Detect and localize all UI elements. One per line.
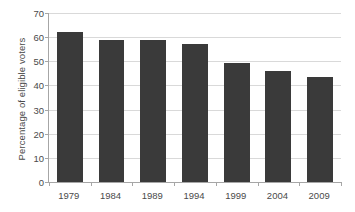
bars-group: [49, 13, 341, 182]
x-axis-tick-label: 1984: [100, 190, 121, 201]
x-axis-tick-label: 1999: [225, 190, 246, 201]
x-axis-tick: [49, 182, 50, 186]
x-axis-tick: [91, 182, 92, 186]
y-axis-tick-labels: 010203040506070: [24, 0, 44, 212]
x-axis-tick: [132, 182, 133, 186]
bar: [140, 40, 166, 182]
y-axis-tick-label: 0: [24, 177, 44, 188]
y-axis-tick-label: 60: [24, 32, 44, 43]
bar-chart: Percentage of eligible voters 0102030405…: [0, 0, 355, 212]
bar: [57, 32, 83, 182]
x-axis-tick-label: 2009: [309, 190, 330, 201]
bar: [99, 40, 125, 182]
x-axis-tick: [216, 182, 217, 186]
x-axis-tick: [299, 182, 300, 186]
x-axis-tick: [258, 182, 259, 186]
y-axis-tick-label: 70: [24, 8, 44, 19]
x-axis-tick: [341, 182, 342, 186]
bar: [265, 71, 291, 182]
y-axis-tick-label: 10: [24, 152, 44, 163]
x-axis-tick: [174, 182, 175, 186]
x-axis-tick-label: 2004: [267, 190, 288, 201]
y-axis-tick-label: 30: [24, 104, 44, 115]
bar: [224, 63, 250, 183]
bar: [307, 77, 333, 182]
x-axis-tick-label: 1989: [142, 190, 163, 201]
x-axis-tick-label: 1994: [183, 190, 204, 201]
x-axis-tick-label: 1979: [58, 190, 79, 201]
y-axis-tick-label: 20: [24, 128, 44, 139]
y-axis-tick-label: 40: [24, 80, 44, 91]
plot-area: [48, 13, 341, 183]
y-axis-tick-label: 50: [24, 56, 44, 67]
bar: [182, 44, 208, 182]
x-axis-tick-labels: 1979198419891994199920042009: [48, 190, 340, 206]
